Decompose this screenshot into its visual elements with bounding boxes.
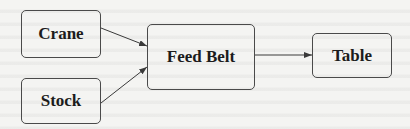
node-crane-label: Crane [38,24,83,44]
edge-stock-to-feed-belt [101,67,147,103]
node-table-label: Table [332,46,372,66]
node-feed-belt: Feed Belt [147,24,255,90]
node-feed-belt-label: Feed Belt [167,47,235,67]
node-stock-label: Stock [41,91,82,111]
node-crane: Crane [21,10,101,58]
node-stock: Stock [21,78,101,124]
edge-crane-to-feed-belt [101,28,147,46]
node-table: Table [312,33,392,78]
